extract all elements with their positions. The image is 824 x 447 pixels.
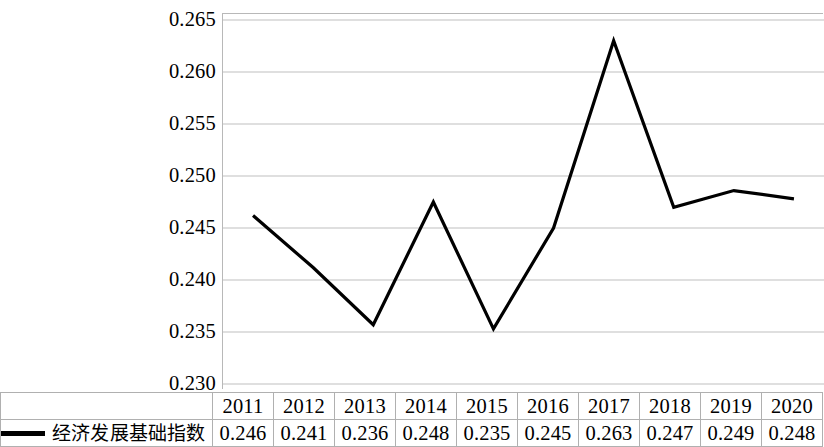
y-tick-label: 0.235 <box>0 321 216 342</box>
year-cell: 2015 <box>457 393 518 420</box>
y-axis: 0.265 0.260 0.255 0.250 0.245 0.240 0.23… <box>0 0 216 392</box>
value-cell: 0.245 <box>518 420 579 447</box>
data-table: 2011 2012 2013 2014 2015 2016 2017 2018 … <box>0 392 823 447</box>
year-cell: 2019 <box>701 393 762 420</box>
year-cell: 2011 <box>213 393 274 420</box>
series-plot <box>223 14 824 390</box>
y-tick-label: 0.260 <box>0 61 216 82</box>
y-tick-label: 0.240 <box>0 269 216 290</box>
series-line-economic-development-foundation-index <box>253 41 794 329</box>
y-tick-label: 0.245 <box>0 217 216 238</box>
y-tick-label: 0.250 <box>0 165 216 186</box>
year-cell: 2013 <box>335 393 396 420</box>
y-tick-label: 0.230 <box>0 373 216 394</box>
value-cell: 0.236 <box>335 420 396 447</box>
value-cell: 0.235 <box>457 420 518 447</box>
gridlines <box>223 20 824 384</box>
year-cell: 2020 <box>762 393 823 420</box>
legend-entry: 经济发展基础指数 <box>1 420 213 447</box>
year-cell: 2017 <box>579 393 640 420</box>
legend-label: 经济发展基础指数 <box>52 424 206 443</box>
year-cell: 2016 <box>518 393 579 420</box>
value-cell: 0.249 <box>701 420 762 447</box>
year-cell: 2012 <box>274 393 335 420</box>
value-cell: 0.263 <box>579 420 640 447</box>
data-table-wrapper: 2011 2012 2013 2014 2015 2016 2017 2018 … <box>0 392 823 444</box>
year-cell: 2014 <box>396 393 457 420</box>
y-tick-label: 0.255 <box>0 113 216 134</box>
value-cell: 0.246 <box>213 420 274 447</box>
value-cell: 0.247 <box>640 420 701 447</box>
year-cell: 2018 <box>640 393 701 420</box>
value-cell: 0.248 <box>762 420 823 447</box>
table-corner-cell <box>1 393 213 420</box>
value-cell: 0.241 <box>274 420 335 447</box>
table-row-years: 2011 2012 2013 2014 2015 2016 2017 2018 … <box>1 393 823 420</box>
value-cell: 0.248 <box>396 420 457 447</box>
line-swatch-icon <box>1 431 45 436</box>
y-tick-label: 0.265 <box>0 9 216 30</box>
plot-area <box>222 13 823 389</box>
table-row-values: 经济发展基础指数 0.246 0.241 0.236 0.248 0.235 0… <box>1 420 823 447</box>
plot-block: 0.265 0.260 0.255 0.250 0.245 0.240 0.23… <box>0 0 823 392</box>
